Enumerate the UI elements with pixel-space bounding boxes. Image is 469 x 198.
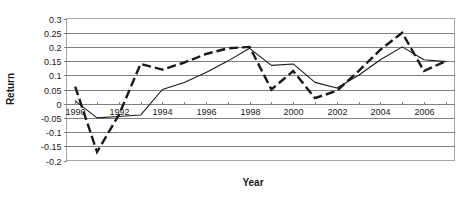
return-vs-year-line-chart: 0.30.250.20.150.10.050-0.05-0.1-0.15-0.2…	[0, 0, 469, 198]
y-tick-label: 0	[56, 100, 61, 110]
y-tick-label: -0.1	[46, 128, 62, 138]
x-tick-label: 1998	[240, 107, 260, 117]
y-tick-label: -0.15	[41, 142, 62, 152]
y-tick-label: -0.05	[41, 114, 62, 124]
y-axis-tick-labels: 0.30.250.20.150.10.050-0.05-0.1-0.15-0.2	[41, 15, 62, 167]
x-tick-label: 1994	[152, 107, 172, 117]
y-axis-title: Return	[5, 73, 16, 105]
y-tick-label: 0.1	[49, 71, 62, 81]
x-tick-label: 2000	[283, 107, 303, 117]
x-axis-title: Year	[242, 177, 263, 188]
y-tick-label: 0.2	[49, 43, 62, 53]
y-tick-label: 0.25	[44, 29, 62, 39]
x-tick-label: 2004	[370, 107, 390, 117]
x-tick-label: 1990	[65, 107, 85, 117]
x-tick-label: 2002	[327, 107, 347, 117]
y-tick-label: -0.2	[46, 157, 62, 167]
y-tick-label: 0.3	[49, 15, 62, 25]
y-tick-label: 0.15	[44, 57, 62, 67]
x-tick-label: 2006	[414, 107, 434, 117]
plot-area-frame	[67, 19, 455, 161]
y-tick-label: 0.05	[44, 86, 62, 96]
x-tick-label: 1996	[196, 107, 216, 117]
chart-container: 0.30.250.20.150.10.050-0.05-0.1-0.15-0.2…	[0, 0, 469, 198]
